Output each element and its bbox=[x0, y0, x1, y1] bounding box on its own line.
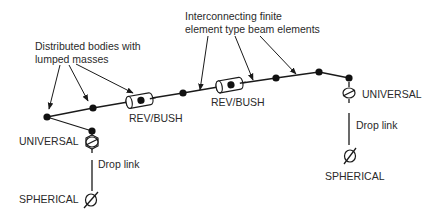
beam-elements-label-line1: Interconnecting finite bbox=[185, 10, 282, 22]
spherical-joint-right bbox=[344, 148, 356, 164]
rev-bush-joint-2 bbox=[215, 76, 247, 93]
universal-joint-right bbox=[343, 82, 355, 103]
annotation-arrow bbox=[260, 36, 296, 74]
beam-element bbox=[319, 72, 349, 78]
lumped-mass-node bbox=[89, 104, 96, 111]
beam-elements-label-line2: element type beam elements bbox=[185, 23, 320, 35]
annotation-arrow bbox=[49, 65, 60, 109]
rev-bush-label-1: REV/BUSH bbox=[129, 112, 183, 124]
distributed-bodies-label-line2: lumped masses bbox=[35, 53, 109, 65]
rev-bush-joint-1 bbox=[125, 92, 157, 109]
drop-link-label-right: Drop link bbox=[356, 119, 398, 131]
lumped-mass-node bbox=[315, 68, 322, 75]
distributed-bodies-label-line1: Distributed bodies with bbox=[35, 40, 141, 52]
beam-chain bbox=[47, 72, 349, 131]
beam-element bbox=[47, 117, 92, 131]
annotation-arrow bbox=[200, 36, 208, 90]
universal-label-right: UNIVERSAL bbox=[362, 88, 422, 100]
universal-joint-left bbox=[86, 131, 98, 153]
drop-link-label-left: Drop link bbox=[98, 158, 140, 170]
lumped-mass-node bbox=[179, 89, 186, 96]
lumped-mass-node bbox=[272, 74, 279, 81]
multibody-diagram: Distributed bodies with lumped masses In… bbox=[0, 0, 437, 222]
lumped-masses bbox=[43, 68, 352, 134]
annotation-arrow bbox=[235, 36, 253, 80]
spherical-label-right: SPHERICAL bbox=[325, 170, 385, 182]
lumped-mass-node bbox=[43, 113, 50, 120]
annotation-arrow bbox=[69, 65, 88, 101]
lumped-mass-node bbox=[345, 74, 352, 81]
beam-element bbox=[47, 108, 93, 117]
beam-element bbox=[93, 102, 128, 108]
rev-bush-label-2: REV/BUSH bbox=[211, 96, 265, 108]
distributed-bodies-arrows bbox=[49, 64, 133, 109]
beam-element bbox=[152, 93, 183, 98]
spherical-label-left: SPHERICAL bbox=[19, 193, 79, 205]
universal-label-left: UNIVERSAL bbox=[19, 135, 79, 147]
annotation-arrow bbox=[76, 64, 133, 93]
beam-element bbox=[242, 78, 276, 83]
spherical-joint-left bbox=[84, 192, 98, 208]
beam-element bbox=[276, 72, 319, 78]
